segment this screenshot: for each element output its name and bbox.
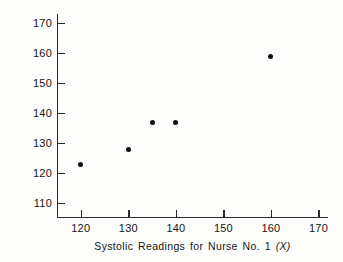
y-tick-140 (58, 113, 65, 114)
y-tick-label-130: 130 (33, 137, 52, 149)
y-axis-line (57, 14, 58, 218)
x-tick-label-120: 120 (71, 222, 90, 234)
plot-area: 110120130140150160170 120130140150160170 (57, 14, 328, 218)
y-tick-130 (58, 143, 65, 144)
x-tick-label-140: 140 (166, 222, 185, 234)
x-tick-label-150: 150 (214, 222, 233, 234)
x-tick-170 (318, 210, 319, 217)
y-tick-label-170: 170 (33, 17, 52, 29)
data-point (126, 147, 131, 152)
x-axis-title-text: Systolic Readings for Nurse No. 1 (94, 240, 275, 252)
data-point (78, 162, 83, 167)
y-tick-label-160: 160 (33, 47, 52, 59)
x-tick-140 (176, 210, 177, 217)
scatter-plot-figure: 110120130140150160170 120130140150160170… (0, 0, 343, 262)
x-tick-130 (128, 210, 129, 217)
y-tick-110 (58, 203, 65, 204)
y-tick-170 (58, 23, 65, 24)
y-tick-150 (58, 83, 65, 84)
x-tick-120 (81, 210, 82, 217)
y-tick-label-120: 120 (33, 167, 52, 179)
x-tick-150 (223, 210, 224, 217)
y-tick-label-110: 110 (34, 197, 52, 209)
x-tick-label-170: 170 (309, 222, 328, 234)
x-axis-title: Systolic Readings for Nurse No. 1 (X) (57, 240, 328, 252)
y-tick-160 (58, 53, 65, 54)
y-tick-label-140: 140 (33, 107, 52, 119)
y-tick-120 (58, 173, 65, 174)
data-point (150, 120, 155, 125)
x-tick-label-160: 160 (261, 222, 280, 234)
x-tick-label-130: 130 (119, 222, 138, 234)
data-point (173, 120, 178, 125)
x-axis-line (57, 217, 328, 218)
y-tick-label-150: 150 (33, 77, 52, 89)
x-tick-160 (271, 210, 272, 217)
data-point (268, 54, 273, 59)
x-axis-title-variable: (X) (276, 240, 291, 252)
